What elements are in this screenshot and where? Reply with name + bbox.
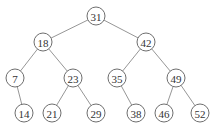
tree-node-29: 29 <box>87 104 105 122</box>
nodes-group: 3118427233549142129384652 <box>6 7 209 122</box>
tree-node-31: 31 <box>87 7 105 25</box>
tree-svg: 3118427233549142129384652 <box>0 0 217 132</box>
node-label: 31 <box>91 11 102 23</box>
tree-node-49: 49 <box>167 69 185 87</box>
tree-node-42: 42 <box>137 33 155 51</box>
tree-node-23: 23 <box>64 69 82 87</box>
node-label: 18 <box>38 37 50 49</box>
tree-node-52: 52 <box>191 104 209 122</box>
edge-42-35 <box>123 49 141 71</box>
tree-node-21: 21 <box>43 104 61 122</box>
node-label: 29 <box>91 108 103 120</box>
edge-31-42 <box>104 20 138 38</box>
binary-tree-diagram: 3118427233549142129384652 <box>0 0 217 132</box>
node-label: 49 <box>171 73 183 85</box>
edge-23-21 <box>57 86 69 106</box>
tree-node-35: 35 <box>108 69 126 87</box>
edge-18-7 <box>21 49 38 71</box>
tree-node-18: 18 <box>34 33 52 51</box>
edge-49-52 <box>181 85 195 105</box>
edge-7-14 <box>17 87 22 105</box>
edge-42-49 <box>152 49 170 71</box>
edge-31-18 <box>51 20 88 38</box>
node-label: 23 <box>68 73 80 85</box>
tree-node-7: 7 <box>6 69 24 87</box>
node-label: 21 <box>47 108 58 120</box>
node-label: 46 <box>159 108 171 120</box>
edge-23-29 <box>78 86 91 106</box>
node-label: 14 <box>19 108 31 120</box>
node-label: 42 <box>141 37 152 49</box>
node-label: 7 <box>12 73 18 85</box>
node-label: 35 <box>112 73 124 85</box>
edge-35-38 <box>121 86 131 105</box>
edge-18-23 <box>49 49 67 71</box>
tree-node-38: 38 <box>127 104 145 122</box>
node-label: 38 <box>131 108 143 120</box>
edge-49-46 <box>167 87 173 105</box>
tree-node-14: 14 <box>15 104 33 122</box>
tree-node-46: 46 <box>155 104 173 122</box>
node-label: 52 <box>195 108 206 120</box>
